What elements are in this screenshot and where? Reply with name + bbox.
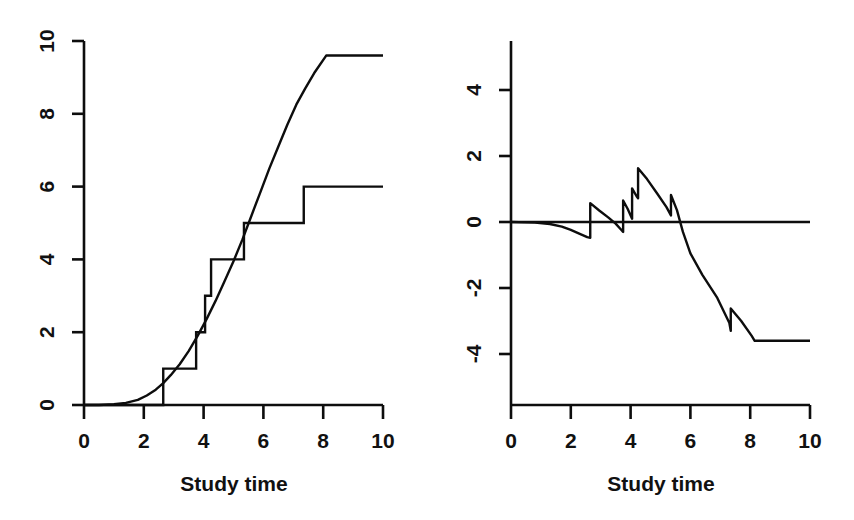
cumulative-hazard-panel: 0 2 4 6 8 10 0 2 4 6 8 10 Study time [0, 0, 427, 520]
right-y-ticks [499, 90, 511, 354]
cumulative-hazard-smooth-curve [84, 56, 383, 405]
right-x-ticklabel-4: 4 [625, 429, 637, 452]
left-y-ticklabel-2: 2 [35, 326, 58, 338]
left-x-ticklabel-2: 2 [138, 429, 150, 452]
left-y-ticklabel-10: 10 [35, 29, 58, 52]
nelson-aalen-step-curve [84, 187, 383, 405]
left-x-ticklabel-4: 4 [198, 429, 210, 452]
left-x-ticklabel-0: 0 [78, 429, 90, 452]
right-y-ticklabel-0: 0 [462, 216, 485, 228]
left-xaxis-title: Study time [180, 472, 287, 495]
right-y-ticklabel-4: 4 [462, 84, 485, 96]
left-x-ticklabel-6: 6 [258, 429, 270, 452]
left-x-ticks [84, 405, 383, 419]
right-xaxis-title: Study time [607, 472, 714, 495]
right-x-ticklabel-10: 10 [798, 429, 821, 452]
right-x-ticklabel-2: 2 [565, 429, 577, 452]
right-x-ticks [511, 405, 810, 419]
martingale-residual-panel: -4 -2 0 2 4 0 2 4 6 8 10 Study time [427, 0, 854, 520]
right-y-ticklabel-neg4: -4 [462, 344, 485, 363]
left-y-ticks [72, 41, 84, 405]
left-y-ticklabel-8: 8 [35, 108, 58, 120]
right-x-ticklabel-6: 6 [685, 429, 697, 452]
right-x-ticklabel-0: 0 [505, 429, 517, 452]
martingale-residual-curve [511, 168, 810, 341]
left-x-ticklabel-8: 8 [317, 429, 329, 452]
figure-root: 0 2 4 6 8 10 0 2 4 6 8 10 Study time [0, 0, 854, 520]
right-y-ticklabel-2: 2 [462, 150, 485, 162]
left-plot-svg: 0 2 4 6 8 10 0 2 4 6 8 10 Study time [0, 0, 427, 520]
left-y-ticklabel-6: 6 [35, 181, 58, 193]
right-x-ticklabel-8: 8 [744, 429, 756, 452]
right-plot-svg: -4 -2 0 2 4 0 2 4 6 8 10 Study time [427, 0, 854, 520]
left-x-ticklabel-10: 10 [371, 429, 394, 452]
left-y-ticklabel-0: 0 [35, 399, 58, 411]
left-y-ticklabel-4: 4 [35, 253, 58, 265]
right-y-ticklabel-neg2: -2 [462, 279, 485, 298]
